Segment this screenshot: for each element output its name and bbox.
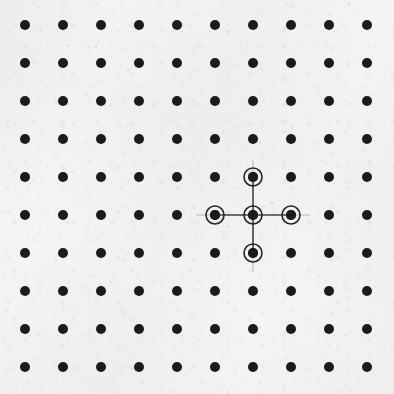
- grid-dot: [58, 58, 68, 68]
- grid-dot: [286, 324, 296, 334]
- paper-speck-right-of-center: [271, 202, 273, 204]
- grid-dot: [286, 96, 296, 106]
- grid-dot: [324, 248, 334, 258]
- grid-dot: [172, 286, 182, 296]
- paper-speck-layer: [95, 46, 273, 204]
- grid-dot: [324, 20, 334, 30]
- grid-dot: [286, 362, 296, 372]
- grid-dot: [248, 96, 258, 106]
- grid-dot: [58, 324, 68, 334]
- grid-dot: [172, 96, 182, 106]
- grid-dot: [362, 134, 372, 144]
- grid-dot: [248, 58, 258, 68]
- grid-dot: [286, 172, 296, 182]
- grid-dot: [210, 172, 220, 182]
- grid-dot: [210, 362, 220, 372]
- grid-dot: [286, 286, 296, 296]
- grid-dot: [324, 210, 334, 220]
- grid-dot: [210, 96, 220, 106]
- grid-dot: [324, 134, 334, 144]
- grid-dot: [58, 172, 68, 182]
- grid-dot: [248, 286, 258, 296]
- grid-dot: [58, 286, 68, 296]
- grid-dot: [248, 324, 258, 334]
- grid-dot: [134, 324, 144, 334]
- grid-dot: [96, 20, 106, 30]
- grid-dot: [172, 58, 182, 68]
- grid-dot: [362, 58, 372, 68]
- grid-dot: [134, 248, 144, 258]
- grid-dot-layer: [20, 20, 372, 372]
- grid-dot: [58, 248, 68, 258]
- grid-dot: [286, 248, 296, 258]
- grid-dot: [286, 134, 296, 144]
- grid-dot: [58, 96, 68, 106]
- paper-speck-upper-left: [95, 46, 97, 48]
- grid-dot: [96, 96, 106, 106]
- grid-dot: [210, 134, 220, 144]
- grid-dot: [20, 58, 30, 68]
- grid-dot: [172, 172, 182, 182]
- grid-dot: [324, 96, 334, 106]
- grid-dot: [96, 172, 106, 182]
- grid-dot: [96, 286, 106, 296]
- grid-dot: [324, 58, 334, 68]
- grid-dot: [134, 58, 144, 68]
- grid-dot: [324, 172, 334, 182]
- west-node-core: [210, 210, 220, 220]
- grid-dot: [362, 362, 372, 372]
- grid-dot: [96, 134, 106, 144]
- grid-dot: [134, 362, 144, 372]
- grid-dot: [172, 324, 182, 334]
- grid-dot: [134, 134, 144, 144]
- east-node-core: [286, 210, 296, 220]
- grid-dot: [324, 362, 334, 372]
- grid-dot: [20, 362, 30, 372]
- grid-dot: [20, 134, 30, 144]
- grid-dot: [58, 362, 68, 372]
- grid-dot: [324, 286, 334, 296]
- grid-dot: [362, 96, 372, 106]
- grid-dot: [20, 286, 30, 296]
- grid-dot: [96, 210, 106, 220]
- grid-dot: [172, 210, 182, 220]
- grid-dot: [248, 20, 258, 30]
- grid-dot: [362, 286, 372, 296]
- center-node-core: [248, 210, 258, 220]
- grid-dot: [134, 96, 144, 106]
- grid-dot: [96, 58, 106, 68]
- grid-dot: [20, 96, 30, 106]
- grid-dot: [286, 58, 296, 68]
- grid-dot: [58, 210, 68, 220]
- grid-dot: [172, 20, 182, 30]
- grid-dot: [20, 210, 30, 220]
- grid-dot: [96, 362, 106, 372]
- grid-dot: [20, 248, 30, 258]
- lattice-canvas: [0, 0, 394, 394]
- grid-dot: [324, 324, 334, 334]
- grid-dot: [286, 20, 296, 30]
- grid-dot: [248, 134, 258, 144]
- grid-dot: [362, 324, 372, 334]
- grid-dot: [362, 210, 372, 220]
- grid-dot: [20, 20, 30, 30]
- grid-dot: [172, 248, 182, 258]
- grid-dot: [20, 172, 30, 182]
- grid-dot: [362, 20, 372, 30]
- grid-dot: [134, 20, 144, 30]
- grid-dot: [210, 324, 220, 334]
- grid-dot: [172, 362, 182, 372]
- grid-dot: [210, 58, 220, 68]
- grid-dot: [248, 362, 258, 372]
- grid-dot: [20, 324, 30, 334]
- lattice-figure: [0, 0, 394, 394]
- grid-dot: [96, 248, 106, 258]
- grid-dot: [210, 20, 220, 30]
- grid-dot: [134, 172, 144, 182]
- grid-dot: [134, 286, 144, 296]
- north-node-core: [248, 172, 258, 182]
- grid-dot: [96, 324, 106, 334]
- grid-dot: [58, 20, 68, 30]
- grid-dot: [362, 248, 372, 258]
- grid-dot: [58, 134, 68, 144]
